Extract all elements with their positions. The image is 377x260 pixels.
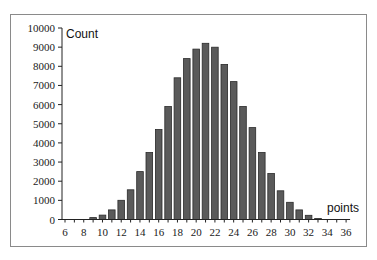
bar-30	[287, 202, 294, 219]
bar-31	[296, 210, 303, 220]
x-tick-label: 6	[62, 226, 68, 238]
bar-26	[249, 128, 256, 220]
x-axis-title: points	[327, 201, 359, 215]
x-tick-label: 32	[303, 226, 314, 238]
bar-22	[212, 47, 219, 219]
bar-14	[137, 172, 144, 220]
x-tick-label: 28	[266, 226, 278, 238]
y-tick-label: 4000	[33, 137, 56, 149]
y-tick-label: 5000	[33, 118, 56, 130]
x-tick-label: 8	[81, 226, 87, 238]
y-axis-title: Count	[66, 27, 99, 41]
y-tick-label: 9000	[33, 41, 56, 53]
bar-28	[268, 174, 275, 220]
bar-25	[240, 107, 247, 220]
y-axis: 0100020003000400050006000700080009000100…	[28, 22, 63, 226]
bar-13	[127, 190, 134, 220]
bar-12	[118, 200, 125, 219]
bar-29	[277, 191, 284, 220]
x-tick-label: 16	[153, 226, 165, 238]
x-tick-label: 34	[322, 226, 334, 238]
x-tick-label: 10	[97, 226, 109, 238]
bar-17	[165, 107, 172, 220]
bar-27	[259, 153, 266, 220]
x-tick-label: 12	[116, 226, 127, 238]
y-tick-label: 7000	[33, 79, 56, 91]
bar-15	[146, 153, 153, 220]
bar-20	[193, 49, 200, 219]
bar-18	[174, 78, 181, 220]
x-tick-label: 36	[341, 226, 353, 238]
bar-16	[155, 130, 162, 220]
x-tick-label: 22	[209, 226, 220, 238]
y-tick-label: 8000	[33, 60, 56, 72]
y-tick-label: 6000	[33, 99, 56, 111]
x-axis: 681012141618202224262830323436	[62, 220, 352, 238]
y-tick-label: 2000	[33, 175, 56, 187]
bar-21	[202, 43, 209, 219]
histogram-chart: 0100020003000400050006000700080009000100…	[0, 0, 377, 260]
x-tick-label: 30	[284, 226, 296, 238]
y-tick-label: 10000	[28, 22, 56, 34]
x-tick-label: 20	[191, 226, 203, 238]
y-tick-label: 0	[50, 214, 56, 226]
bar-19	[184, 59, 191, 220]
bar-24	[230, 82, 237, 220]
y-tick-label: 3000	[33, 156, 56, 168]
x-tick-label: 14	[134, 226, 146, 238]
bar-10	[99, 215, 106, 219]
bar-32	[305, 215, 312, 219]
x-tick-label: 26	[247, 226, 259, 238]
x-tick-label: 24	[228, 226, 240, 238]
y-tick-label: 1000	[33, 194, 56, 206]
bar-11	[109, 210, 116, 220]
bars-group	[90, 43, 322, 219]
x-tick-label: 18	[172, 226, 184, 238]
bar-23	[221, 64, 228, 219]
